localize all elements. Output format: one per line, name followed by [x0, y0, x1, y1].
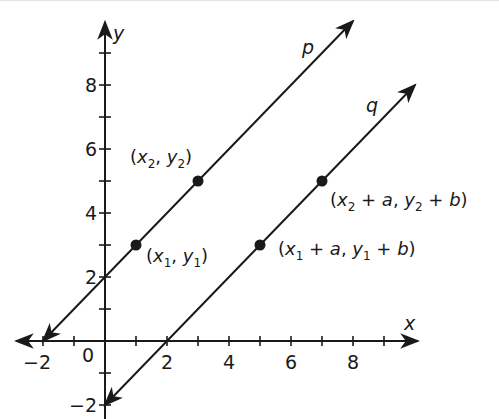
point-q1 — [255, 240, 266, 251]
point-label-x1-y1: (x1, y1) — [146, 245, 208, 270]
x-tick-label: 2 — [161, 351, 173, 373]
line-q-upper-arrow-icon — [260, 85, 415, 245]
x-tick-label: 4 — [223, 351, 235, 373]
parallel-lines — [43, 21, 415, 405]
point-label-x1a-y1b: (x1 + a, y1 + b) — [278, 238, 416, 263]
point-p1 — [131, 240, 142, 251]
x-axis: −22468 x — [16, 312, 418, 373]
point-label-x2-y2: (x2, y2) — [130, 146, 192, 171]
y-axis: 8642−2 y — [69, 22, 125, 419]
y-tick-label: −2 — [69, 394, 97, 416]
origin-label: 0 — [82, 344, 94, 366]
point-q2 — [317, 176, 328, 187]
y-tick-label: 6 — [85, 138, 97, 160]
y-axis-label: y — [112, 22, 125, 44]
y-tick-label: 8 — [85, 74, 97, 96]
line-p-upper-arrow-icon — [198, 21, 353, 181]
x-tick-label: −2 — [23, 351, 51, 373]
point-p2 — [193, 176, 204, 187]
coordinate-plane: −22468 x 8642−2 y 0 p q (x1, y1) (x2, y2… — [0, 0, 499, 419]
x-axis-label: x — [403, 312, 416, 334]
line-p-label: p — [301, 36, 314, 58]
y-tick-label: 4 — [85, 202, 97, 224]
y-tick-label: 2 — [85, 266, 97, 288]
x-tick-label: 8 — [347, 351, 359, 373]
x-axis-tick-labels: −22468 — [23, 351, 359, 373]
x-tick-label: 6 — [285, 351, 297, 373]
point-label-x2a-y2b: (x2 + a, y2 + b) — [330, 189, 468, 214]
points — [131, 176, 328, 251]
line-q-label: q — [366, 94, 378, 116]
line-q-lower-arrow-icon — [105, 245, 260, 405]
